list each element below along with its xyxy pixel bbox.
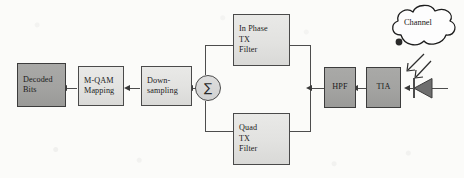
- tia-label: TIA: [377, 82, 391, 93]
- block-quad-tx-filter[interactable]: Quad TX Filter: [233, 113, 290, 165]
- hpf-label: HPF: [332, 82, 347, 93]
- block-diagram: Channel Decoded Bits M-QAM Mapping Down-…: [0, 0, 464, 178]
- block-m-qam-mapping[interactable]: M-QAM Mapping: [78, 66, 124, 106]
- quad-line-1: Quad: [239, 123, 289, 134]
- quad-line-2: TX: [239, 134, 289, 145]
- in-phase-line-1: In Phase: [239, 24, 289, 35]
- wire-downsample-to-mqam: [129, 88, 140, 89]
- decoded-bits-line-2: Bits: [23, 85, 65, 96]
- summation-symbol: ∑: [204, 81, 212, 95]
- down-sampling-line-2: sampling: [147, 86, 191, 97]
- wire-sum-down-horizontal: [205, 131, 234, 132]
- block-hpf[interactable]: HPF: [324, 67, 356, 108]
- block-in-phase-tx-filter[interactable]: In Phase TX Filter: [233, 14, 290, 66]
- block-decoded-bits[interactable]: Decoded Bits: [17, 63, 66, 107]
- wire-sum-up-vertical: [205, 45, 206, 75]
- channel-label: Channel: [404, 18, 432, 27]
- wire-sum-up-horizontal: [205, 45, 234, 46]
- in-phase-line-2: TX: [239, 35, 289, 46]
- wire-split-to-quad: [290, 131, 311, 132]
- photodiode-anode-lead: [432, 88, 448, 89]
- wire-mqam-to-decoded: [66, 88, 77, 89]
- arrow-hpf-to-split: [306, 85, 312, 91]
- channel-cloud-icon: [383, 2, 461, 54]
- wire-split-to-inphase: [290, 45, 311, 46]
- quad-line-3: Filter: [239, 144, 289, 155]
- m-qam-line-1: M-QAM: [84, 76, 123, 87]
- wire-hpf-to-split: [310, 88, 324, 89]
- block-tia[interactable]: TIA: [366, 67, 401, 108]
- arrow-downsample-to-mqam: [124, 85, 130, 91]
- decoded-bits-line-1: Decoded: [23, 75, 65, 86]
- wire-sum-down-vertical: [205, 101, 206, 131]
- m-qam-line-2: Mapping: [84, 86, 123, 97]
- block-down-sampling[interactable]: Down- sampling: [141, 66, 192, 106]
- in-phase-line-3: Filter: [239, 45, 289, 56]
- optical-incidence-arrows-icon: [398, 52, 432, 86]
- summing-junction[interactable]: ∑: [195, 75, 221, 101]
- down-sampling-line-1: Down-: [147, 76, 191, 87]
